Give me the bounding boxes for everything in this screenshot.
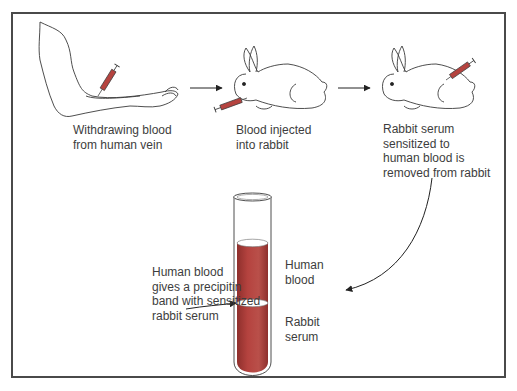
rabbit-icon	[382, 46, 474, 109]
step-1-label: Withdrawing blood from human vein	[73, 123, 172, 152]
tube-upper-layer-label: Human blood	[285, 258, 324, 287]
step-2-label: Blood injected into rabbit	[236, 123, 311, 152]
syringe-icon	[95, 64, 119, 98]
diagram-artwork	[0, 0, 517, 391]
syringe-icon	[444, 58, 475, 82]
tube-lower-layer-label: Rabbit serum	[285, 315, 320, 344]
arm-icon	[39, 22, 178, 117]
syringe-icon	[214, 95, 248, 112]
step-3-label: Rabbit serum sensitized to human blood i…	[383, 122, 490, 180]
precipitin-band-label: Human blood gives a precipitin band with…	[152, 265, 260, 323]
rabbit-icon	[234, 46, 326, 109]
arrow-step3-to-tube	[346, 178, 432, 290]
